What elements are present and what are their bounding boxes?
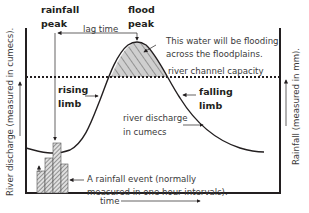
rising-limb-label-2: limb [58, 99, 81, 109]
rainfall-bars [37, 143, 68, 193]
x-axis-label: time [100, 197, 119, 206]
falling-limb-label-2: limb [199, 101, 222, 111]
rainfall-peak-label: rainfall [41, 5, 79, 15]
rainfall-event-label: A rainfall event (normally [87, 175, 196, 184]
discharge-label-2: in cumecs [123, 128, 167, 137]
flood-water-label: This water will be flooding [166, 37, 279, 46]
lag-time-label: lag time [83, 25, 118, 34]
rising-limb-label: rising [58, 85, 88, 95]
y-axis-right-label: Rainfall (measured in mm). [292, 48, 301, 165]
rainfall-peak-label-2: peak [41, 19, 67, 29]
flood-water-label-2: across the floodplains. [166, 50, 263, 59]
discharge-label: river discharge [123, 114, 187, 123]
flood-peak-label: flood [128, 5, 155, 15]
storm-hydrograph-diagram: rainfall peak flood peak lag time This w… [0, 0, 309, 213]
channel-capacity-label: river channel capacity [168, 67, 264, 76]
y-axis-left-label: River discharge (measured in cumecs). [6, 28, 15, 196]
flood-area [111, 42, 168, 77]
flood-peak-label-2: peak [128, 19, 154, 29]
falling-limb-label: falling [199, 87, 233, 97]
